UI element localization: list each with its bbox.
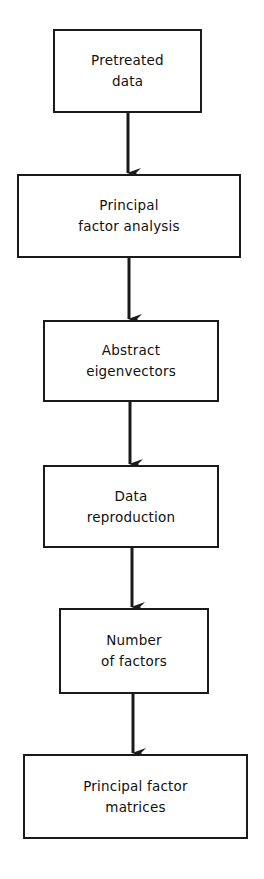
node-abstract-eigenvectors: Abstract eigenvectors [43,320,219,402]
node-principal-factor-matrices: Principal factor matrices [23,754,248,839]
node-label-line: eigenvectors [86,361,176,382]
flow-arrows [0,0,264,879]
node-label-line: Number [106,630,161,651]
node-pretreated-data: Pretreated data [53,29,202,113]
node-label-line: Pretreated [91,50,164,71]
node-label-line: factor analysis [78,216,180,237]
node-number-of-factors: Number of factors [59,608,209,694]
node-label-line: Abstract [102,340,160,361]
node-label-line: Principal [99,195,158,216]
node-label-line: Data [114,486,147,507]
node-label-line: data [112,71,143,92]
node-label-line: matrices [105,797,165,818]
node-principal-factor-analysis: Principal factor analysis [17,174,241,258]
node-label-line: Principal factor [83,776,188,797]
node-data-reproduction: Data reproduction [43,465,219,548]
flowchart: Pretreated data Principal factor analysi… [0,0,264,879]
node-label-line: of factors [101,651,167,672]
node-label-line: reproduction [87,507,175,528]
